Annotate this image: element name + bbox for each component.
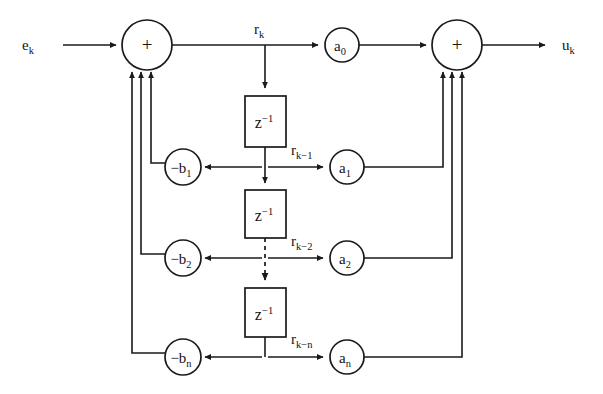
output-sub: k — [570, 45, 576, 56]
signal-label-rkn: rk−n — [291, 331, 313, 350]
input-adder-symbol: + — [142, 34, 153, 55]
output-signal-label: uk — [562, 37, 576, 56]
gain-b1-base: −b — [170, 160, 186, 176]
input-sub: k — [29, 45, 35, 56]
gain-bn-base: −b — [170, 350, 186, 366]
signal-label-rk: rk — [254, 21, 265, 40]
wire-b1-feedback — [151, 72, 165, 163]
wire-bn-feedback — [132, 72, 165, 353]
wire-a2-to-output-adder — [364, 72, 452, 258]
delay-2-exponent: −1 — [262, 206, 273, 217]
gain-bn-sub: n — [186, 358, 192, 369]
gain-b2-sub: 2 — [186, 259, 191, 270]
wire-a1-to-output-adder — [364, 72, 443, 167]
delay-2-base: z — [255, 207, 262, 224]
input-signal-label: ek — [22, 37, 35, 56]
signal-label-rk1: rk−1 — [291, 142, 312, 161]
rk1-sub: k−1 — [296, 150, 312, 161]
rkn-sub: k−n — [296, 339, 313, 350]
gain-b2-base: −b — [170, 251, 186, 267]
rk-sub: k — [259, 29, 265, 40]
gain-a2-sub: 2 — [346, 259, 351, 270]
gain-a1-sub: 1 — [346, 168, 351, 179]
gain-a0-sub: 0 — [341, 46, 346, 57]
filter-block-diagram: + a0 + z−1 z−1 z−1 −b1 a1 −b2 a — [0, 0, 603, 394]
rk2-sub: k−2 — [296, 241, 312, 252]
gain-b1-sub: 1 — [186, 168, 191, 179]
output-adder-symbol: + — [452, 34, 463, 55]
delay-3-exponent: −1 — [262, 305, 273, 316]
diagram-canvas: + a0 + z−1 z−1 z−1 −b1 a1 −b2 a — [0, 0, 603, 394]
signal-label-rk2: rk−2 — [291, 233, 312, 252]
gain-an-sub: n — [346, 358, 352, 369]
wire-an-to-output-adder — [364, 72, 462, 357]
delay-1-exponent: −1 — [262, 113, 273, 124]
delay-1-base: z — [255, 114, 262, 131]
delay-3-base: z — [255, 306, 262, 323]
